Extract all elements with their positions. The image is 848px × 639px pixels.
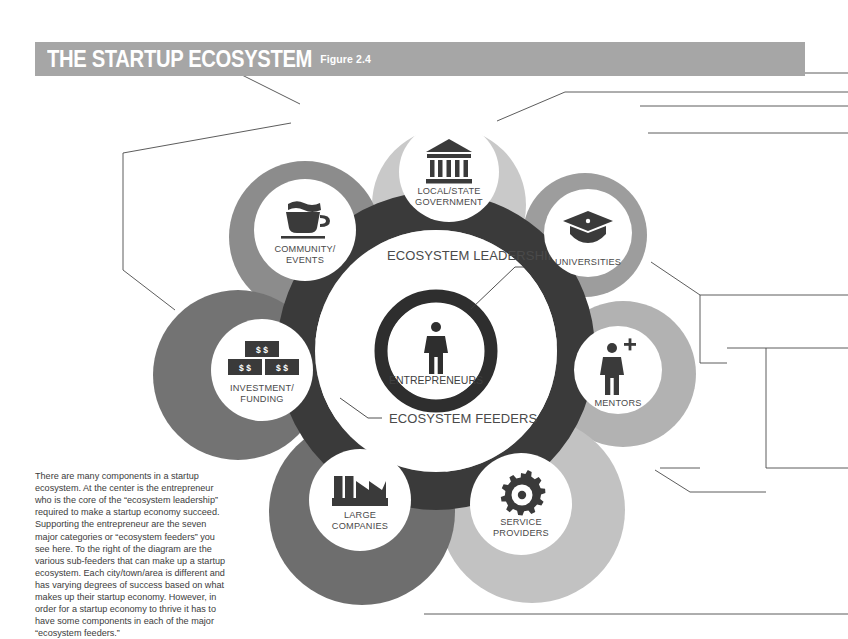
service-label-line1: SERVICE xyxy=(500,517,542,527)
investment-label-line2: FUNDING xyxy=(240,394,283,404)
connector-universities xyxy=(651,262,848,295)
connector-universities-branch xyxy=(700,295,727,363)
ecosystem-leadership-label: ECOSYSTEM LEADERSHIP xyxy=(387,248,557,263)
investment-label-line1: INVESTMENT/ xyxy=(230,383,294,393)
connector-service xyxy=(655,470,766,492)
page-title: THE STARTUP ECOSYSTEM xyxy=(47,46,312,73)
government-label-line1: LOCAL/STATE xyxy=(417,186,480,196)
large-companies-label-line2: COMPANIES xyxy=(332,521,388,531)
service-label-line2: PROVIDERS xyxy=(493,528,549,538)
money-bill-left-text: $ $ xyxy=(239,363,251,373)
title-banner: THE STARTUP ECOSYSTEM Figure 2.4 xyxy=(35,42,805,76)
universities-label-line1: UNIVERSITIES xyxy=(555,257,621,267)
entrepreneurs-label: ENTREPRENEURS xyxy=(389,374,483,386)
description-paragraph: There are many components in a startup e… xyxy=(35,470,231,639)
money-bill-right-text: $ $ xyxy=(276,363,288,373)
mentors-label-line1: MENTORS xyxy=(594,398,641,408)
large-companies-label-line1: LARGE xyxy=(344,510,376,520)
community-label-line1: COMMUNITY/ xyxy=(274,244,335,254)
community-label-line2: EVENTS xyxy=(286,255,324,265)
government-label-line2: GOVERNMENT xyxy=(415,197,483,207)
ecosystem-feeders-label: ECOSYSTEM FEEDERS xyxy=(389,411,538,426)
money-bill-top-text: $ $ xyxy=(256,345,268,355)
connector-government xyxy=(497,92,848,121)
connector-mentors-trunk xyxy=(766,348,848,468)
figure-number-label: Figure 2.4 xyxy=(320,53,371,65)
